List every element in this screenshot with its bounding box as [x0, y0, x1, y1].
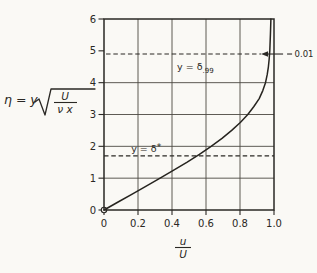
- x-tick-label: 0.6: [198, 218, 214, 229]
- sqrt-fraction-numerator: U: [61, 90, 69, 102]
- y-axis-label: η = y U ν x: [4, 89, 95, 115]
- x-tick-label: 0: [101, 218, 107, 229]
- eta-expression-prefix: η = y: [4, 92, 38, 107]
- x-fraction-denominator: U: [179, 248, 187, 260]
- x-tick-label: 1.0: [266, 218, 282, 229]
- x-tick-label: 0.2: [130, 218, 146, 229]
- y-tick-label: 0: [90, 205, 96, 216]
- delta-label: y = δ.99: [177, 61, 214, 75]
- plot-area: 00.20.40.60.81.00123456y = δ.99y = δ*0.0…: [90, 14, 314, 230]
- x-axis-label: u U: [175, 235, 191, 260]
- y-tick-label: 1: [90, 173, 96, 184]
- y-tick-label: 2: [90, 141, 96, 152]
- chart-canvas: 00.20.40.60.81.00123456y = δ.99y = δ*0.0…: [0, 0, 317, 273]
- sqrt-fraction-denominator: ν x: [57, 103, 73, 115]
- x-tick-label: 0.4: [164, 218, 180, 229]
- y-tick-label: 6: [90, 14, 96, 25]
- y-tick-label: 3: [90, 109, 96, 120]
- blasius-velocity-profile-figure: 00.20.40.60.81.00123456y = δ.99y = δ*0.0…: [0, 0, 317, 273]
- delta-label: y = δ*: [131, 142, 161, 155]
- gap-value-label: 0.01: [295, 49, 314, 59]
- y-tick-label: 5: [90, 45, 96, 56]
- x-tick-label: 0.8: [232, 218, 248, 229]
- x-fraction-numerator: u: [180, 235, 187, 247]
- y-tick-label: 4: [90, 77, 96, 88]
